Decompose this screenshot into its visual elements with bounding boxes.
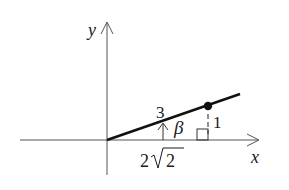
angle-label: β <box>173 117 184 138</box>
svg-text:2: 2 <box>140 151 149 171</box>
angle-arrow-icon <box>158 123 168 140</box>
y-axis-label: y <box>86 20 96 40</box>
hypotenuse-label: 3 <box>156 103 165 122</box>
svg-text:2: 2 <box>166 151 175 171</box>
x-axis <box>20 134 259 146</box>
y-axis <box>101 22 113 175</box>
right-angle-marker <box>197 129 208 140</box>
x-axis-label: x <box>250 147 259 167</box>
point-marker <box>204 102 212 110</box>
adjacent-label: 2 2 <box>140 148 184 171</box>
diagram-canvas: y x 3 β 1 2 2 <box>0 0 289 190</box>
opposite-label: 1 <box>213 113 222 132</box>
